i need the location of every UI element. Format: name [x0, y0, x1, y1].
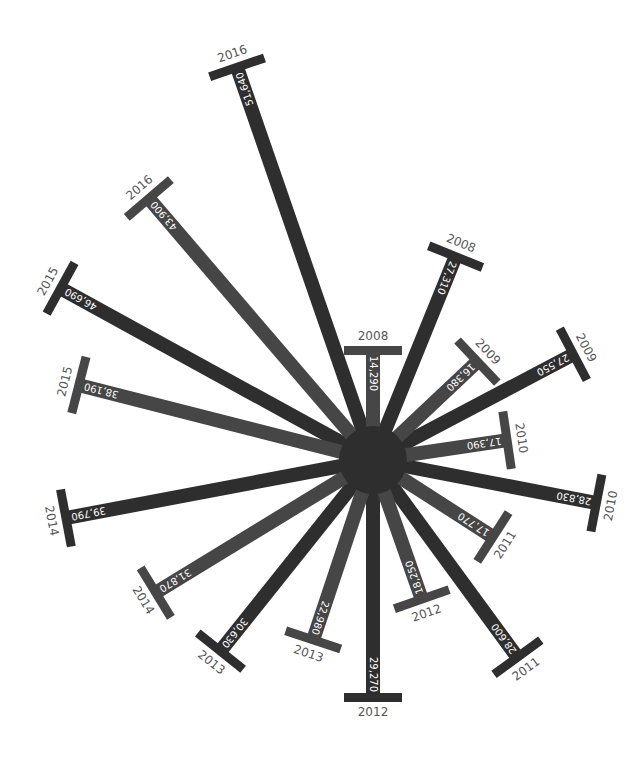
- bar-value-label: 28,600: [489, 621, 519, 656]
- bar-value-label: 29,270: [368, 657, 379, 692]
- bar-value-label: 30,630: [220, 616, 250, 650]
- bar-stem: [143, 193, 378, 464]
- bar-value-label: 16,380: [444, 361, 477, 393]
- bar-year-label: 2010: [601, 489, 621, 522]
- bar-value-label: 27,310: [435, 260, 458, 297]
- center-hub: [339, 426, 407, 494]
- bar-value-label: 51,640: [234, 71, 256, 108]
- bar-value-label: 43,900: [148, 199, 179, 233]
- bar-year-label: 2014: [42, 504, 61, 537]
- radial-bar-chart: 27,310200827,550200928,830201028,6002011…: [0, 0, 630, 761]
- bar-value-label: 18,250: [403, 559, 425, 596]
- bar-stem: [77, 378, 375, 467]
- bar-year-label: 2010: [512, 422, 530, 454]
- bar-cap: [344, 346, 402, 355]
- bar-stem: [230, 65, 379, 463]
- bar-stem: [57, 282, 377, 466]
- bar-value-label: 14,290: [368, 356, 379, 391]
- bar-cap: [344, 693, 402, 702]
- bar-value-label: 22,980: [310, 600, 331, 637]
- bar-year-label: 2012: [358, 705, 389, 719]
- bar-year-label: 2008: [358, 329, 389, 343]
